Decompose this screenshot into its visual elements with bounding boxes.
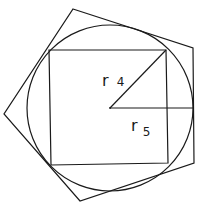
label-r4: r 4 (102, 71, 124, 90)
label-r4-letter: r (102, 71, 109, 90)
label-r5-letter: r (131, 116, 138, 135)
label-r4-subscript: 4 (117, 75, 125, 89)
center-point (109, 107, 111, 109)
label-r5-subscript: 5 (143, 125, 151, 139)
geometry-figure: r 4 r 5 (0, 0, 198, 204)
circumscribed-pentagon (4, 9, 194, 201)
label-r5: r 5 (131, 116, 150, 139)
